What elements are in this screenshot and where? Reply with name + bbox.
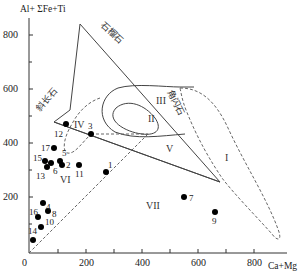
label-9: 9 xyxy=(212,216,217,226)
y-tick-600: 600 xyxy=(3,83,18,94)
garnet-label: 石榴石 xyxy=(99,19,126,45)
sample-points xyxy=(30,121,218,243)
sample-point-9 xyxy=(212,209,218,215)
label-5: 5 xyxy=(62,148,67,158)
x-tick-200: 200 xyxy=(79,257,94,268)
field-III-label: III xyxy=(156,95,166,106)
y-tick-800: 800 xyxy=(3,29,18,40)
label-16: 16 xyxy=(29,207,39,217)
label-6: 6 xyxy=(53,166,58,176)
field-II-label: II xyxy=(148,113,155,124)
x-axis-title: Ca+Mg xyxy=(268,261,297,271)
field-VI-label: VI xyxy=(60,174,71,185)
field-V-label: V xyxy=(166,143,174,154)
hornblende-label: 角闪石 xyxy=(165,88,187,117)
sample-point-17 xyxy=(51,145,57,151)
y-ticks xyxy=(29,35,33,224)
y-tick-400: 400 xyxy=(3,137,18,148)
label-2: 2 xyxy=(66,160,71,170)
x-tick-800: 800 xyxy=(247,257,262,268)
field-I-label: I xyxy=(225,152,228,163)
y-axis-title: Al+ ΣFe+Ti xyxy=(20,4,66,14)
label-13: 13 xyxy=(36,171,46,181)
label-4: 4 xyxy=(46,202,51,212)
label-17: 17 xyxy=(41,143,51,153)
garnet-outline xyxy=(70,24,220,182)
sample-point-12 xyxy=(63,121,69,127)
sample-point-10 xyxy=(38,224,44,230)
field-I-boundary xyxy=(180,88,280,239)
sample-point-7 xyxy=(181,194,187,200)
label-3: 3 xyxy=(88,121,93,131)
y-tick-200: 200 xyxy=(3,191,18,202)
x-tick-600: 600 xyxy=(191,257,206,268)
field-IV-label: IV xyxy=(74,119,85,130)
label-7: 7 xyxy=(189,193,194,203)
sample-point-14 xyxy=(30,237,36,243)
label-10: 10 xyxy=(45,217,55,227)
sample-point-11 xyxy=(76,162,82,168)
sample-labels: 1 2 3 4 5 6 7 8 9 10 11 12 13 14 15 16 1… xyxy=(28,121,217,236)
label-12: 12 xyxy=(54,129,63,139)
field-VII-label: VII xyxy=(146,200,160,211)
x-tick-0: 0 xyxy=(22,257,27,268)
label-11: 11 xyxy=(75,169,84,179)
sample-point-13 xyxy=(44,164,50,170)
x-ticks xyxy=(58,249,254,253)
sample-point-3 xyxy=(88,131,94,137)
plagioclase-label: 斜长石 xyxy=(33,86,59,114)
sample-point-15 xyxy=(42,158,48,164)
x-tick-400: 400 xyxy=(135,257,150,268)
label-1: 1 xyxy=(108,160,113,170)
sample-point-5 xyxy=(57,158,63,164)
label-14: 14 xyxy=(28,226,38,236)
label-15: 15 xyxy=(33,153,43,163)
ternary-diagram: 800 600 400 200 0 200 400 600 800 Al+ ΣF… xyxy=(0,0,306,274)
